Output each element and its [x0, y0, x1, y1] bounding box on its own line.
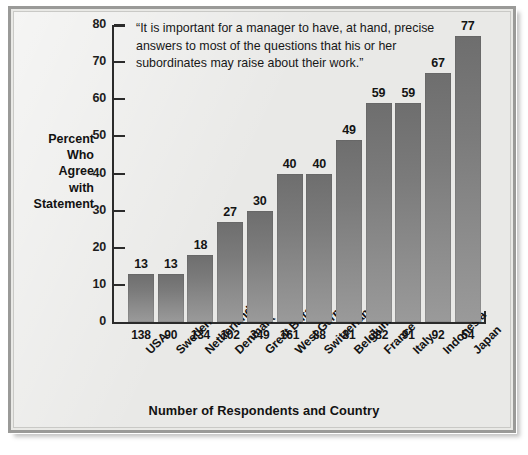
bar [187, 255, 213, 322]
y-axis-title-line: Percent [14, 131, 94, 147]
y-axis-tick-label: 20 [72, 240, 106, 254]
bar-value-label: 49 [329, 123, 369, 137]
bar [128, 274, 154, 322]
y-axis-tick-label: 60 [72, 91, 106, 105]
y-axis-tick-label: 0 [72, 314, 106, 328]
bar [158, 274, 184, 322]
y-axis-tick-label: 10 [72, 277, 106, 291]
y-axis-title: PercentWhoAgreewithStatement [14, 131, 94, 212]
bar-value-label: 40 [299, 157, 339, 171]
y-axis-tick [114, 173, 125, 175]
y-axis-tick [114, 61, 125, 63]
y-axis-tick [114, 24, 125, 26]
y-axis-tick-label: 70 [72, 54, 106, 68]
bar [277, 174, 303, 323]
bar-value-label: 77 [448, 19, 488, 33]
bar-value-label: 30 [240, 194, 280, 208]
bar [336, 140, 362, 322]
chart-figure: 01020304050607080 PercentWhoAgreewithSta… [0, 0, 528, 455]
y-axis-tick [114, 135, 125, 137]
bar [247, 211, 273, 322]
quote-annotation: “It is important for a manager to have, … [136, 20, 436, 73]
y-axis-title-line: Who [14, 147, 94, 163]
bar-value-label: 13 [151, 257, 191, 271]
bar [217, 222, 243, 322]
y-axis-tick [114, 284, 125, 286]
bar [425, 73, 451, 322]
y-axis-line [112, 25, 114, 324]
y-axis-tick [114, 247, 125, 249]
bar-value-label: 18 [180, 238, 220, 252]
x-axis-title: Number of Respondents and Country [0, 403, 528, 418]
bar [306, 174, 332, 323]
y-axis-tick-label: 80 [72, 17, 106, 31]
bar-value-label: 59 [388, 86, 428, 100]
plot-area: 01020304050607080 PercentWhoAgreewithSta… [0, 0, 528, 455]
bar [366, 103, 392, 322]
bar-value-label: 67 [418, 56, 458, 70]
y-axis-title-line: with [14, 180, 94, 196]
y-axis-tick [114, 210, 125, 212]
bar [455, 36, 481, 322]
bar [395, 103, 421, 322]
y-axis-title-line: Statement [14, 196, 94, 212]
y-axis-tick [114, 98, 125, 100]
y-axis-title-line: Agree [14, 163, 94, 179]
